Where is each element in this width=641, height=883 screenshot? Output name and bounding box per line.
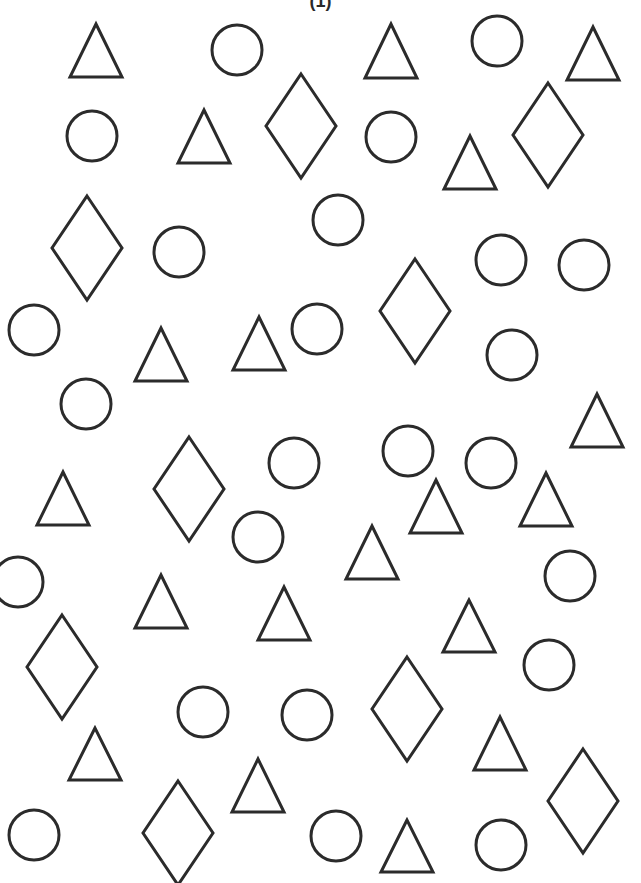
circle-shape (466, 438, 516, 488)
triangle-shape (444, 136, 496, 189)
triangle-shape (474, 717, 526, 770)
triangle-shape (520, 473, 572, 526)
diamond-shape (266, 74, 336, 178)
triangles-group (37, 24, 623, 872)
diamond-shape (154, 437, 224, 541)
triangle-shape (567, 27, 619, 80)
diamond-shape (143, 781, 213, 883)
triangle-shape (233, 317, 285, 370)
shape-worksheet: (1) (0, 0, 641, 883)
circle-shape (233, 512, 283, 562)
triangle-shape (135, 575, 187, 628)
circle-shape (212, 25, 262, 75)
triangle-shape (443, 600, 495, 652)
triangle-shape (232, 759, 284, 812)
diamonds-group (27, 74, 618, 883)
circle-shape (9, 305, 59, 355)
triangle-shape (70, 24, 122, 77)
circle-shape (154, 227, 204, 277)
circle-shape (476, 820, 526, 870)
circle-shape (476, 235, 526, 285)
circle-shape (559, 240, 609, 290)
shapes-canvas (0, 0, 641, 883)
triangle-shape (410, 480, 462, 533)
circle-shape (366, 112, 416, 162)
diamond-shape (380, 259, 450, 363)
circle-shape (282, 690, 332, 740)
circle-shape (524, 640, 574, 690)
circle-shape (0, 557, 43, 607)
circle-shape (67, 111, 117, 161)
triangle-shape (365, 24, 417, 78)
triangle-shape (258, 587, 310, 640)
circle-shape (292, 304, 342, 354)
circle-shape (472, 16, 522, 66)
circle-shape (487, 330, 537, 380)
circle-shape (269, 438, 319, 488)
triangle-shape (37, 472, 89, 525)
circle-shape (545, 551, 595, 601)
triangle-shape (571, 394, 623, 447)
diamond-shape (548, 749, 618, 853)
circle-shape (311, 811, 361, 861)
diamond-shape (372, 657, 442, 761)
diamond-shape (513, 83, 583, 187)
diamond-shape (52, 196, 122, 300)
triangle-shape (69, 728, 121, 780)
triangle-shape (381, 820, 433, 872)
circle-shape (61, 379, 111, 429)
circle-shape (313, 195, 363, 245)
triangle-shape (346, 526, 398, 579)
diamond-shape (27, 615, 97, 719)
triangle-shape (178, 110, 230, 163)
circle-shape (178, 687, 228, 737)
circle-shape (9, 810, 59, 860)
triangle-shape (135, 328, 187, 381)
circle-shape (383, 426, 433, 476)
